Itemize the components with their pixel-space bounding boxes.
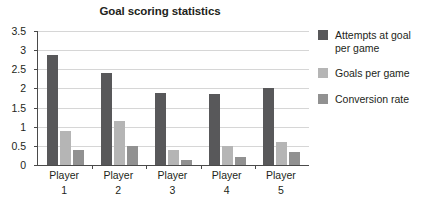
y-axis-tick-label: 2.5 xyxy=(11,64,26,75)
legend-label: Attempts at goalper game xyxy=(335,29,411,54)
bar-group xyxy=(38,31,92,165)
legend-swatch-icon xyxy=(318,68,328,78)
bar xyxy=(289,152,300,165)
x-axis-label-line: 1 xyxy=(37,183,91,198)
bar xyxy=(73,150,84,165)
legend-label: Goals per game xyxy=(335,67,410,80)
y-axis-tick-label: 2 xyxy=(20,83,26,94)
legend-swatch-icon xyxy=(318,94,328,104)
legend-swatch-icon xyxy=(318,30,328,40)
x-axis-label-line: Player xyxy=(49,169,79,181)
bar-series-container xyxy=(38,31,309,165)
legend-item[interactable]: Attempts at goalper game xyxy=(318,29,439,54)
bar xyxy=(168,150,179,165)
chart-title: Goal scoring statistics xyxy=(0,5,320,17)
x-axis-label: Player2 xyxy=(91,168,145,198)
x-axis-label: Player3 xyxy=(145,168,199,198)
x-axis-label: Player5 xyxy=(254,168,308,198)
bar xyxy=(181,160,192,165)
bar xyxy=(101,73,112,165)
y-axis-tick-label: 1 xyxy=(20,121,26,132)
bar xyxy=(155,93,166,165)
x-axis-label-line: 4 xyxy=(200,183,254,198)
bar xyxy=(209,94,220,165)
x-axis-label-line: Player xyxy=(212,169,242,181)
x-axis-label: Player1 xyxy=(37,168,91,198)
legend-item[interactable]: Goals per game xyxy=(318,67,439,80)
x-axis-label-line: 3 xyxy=(145,183,199,198)
y-axis-tick-label: 3.5 xyxy=(11,26,26,37)
bar xyxy=(263,88,274,165)
y-axis-tick-label: 0 xyxy=(20,160,26,171)
bar-group xyxy=(146,31,200,165)
x-axis-label: Player4 xyxy=(200,168,254,198)
x-axis-labels: Player1Player2Player3Player4Player5 xyxy=(37,168,308,204)
bar xyxy=(127,146,138,165)
y-axis-tick xyxy=(34,165,38,166)
bar xyxy=(60,131,71,165)
legend-label: Conversion rate xyxy=(335,93,409,106)
plot-area: 00.511.522.533.5 xyxy=(37,31,309,166)
x-axis-label-line: Player xyxy=(103,169,133,181)
x-axis-label-line: Player xyxy=(158,169,188,181)
x-axis-label-line: 5 xyxy=(254,183,308,198)
bar xyxy=(276,142,287,165)
bar xyxy=(235,157,246,165)
y-axis-tick-label: 1.5 xyxy=(11,102,26,113)
bar-group xyxy=(255,31,309,165)
bar-group xyxy=(92,31,146,165)
legend-item[interactable]: Conversion rate xyxy=(318,93,439,106)
bar xyxy=(114,121,125,165)
y-axis-tick-label: 0.5 xyxy=(11,141,26,152)
y-axis-tick-label: 3 xyxy=(20,45,26,56)
bar-group xyxy=(201,31,255,165)
bar xyxy=(222,146,233,165)
x-axis-label-line: 2 xyxy=(91,183,145,198)
bar-chart: Goal scoring statistics 00.511.522.533.5… xyxy=(0,0,439,206)
x-axis-label-line: Player xyxy=(266,169,296,181)
legend: Attempts at goalper gameGoals per gameCo… xyxy=(318,29,439,118)
bar xyxy=(47,55,58,165)
